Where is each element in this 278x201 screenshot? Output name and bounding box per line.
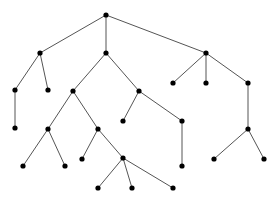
tree-node [45, 126, 50, 131]
tree-node [211, 156, 216, 161]
tree-node [120, 118, 125, 123]
tree-node [136, 88, 141, 93]
tree-node [12, 87, 17, 92]
diagram-background [0, 0, 278, 201]
tree-node [37, 50, 42, 55]
tree-node [245, 80, 250, 85]
tree-node [70, 88, 75, 93]
tree-node [170, 80, 175, 85]
tree-node [79, 156, 84, 161]
tree-node [179, 118, 184, 123]
tree-node [95, 126, 100, 131]
tree-node [103, 50, 108, 55]
tree-node [245, 126, 250, 131]
tree-node [203, 50, 208, 55]
tree-node [95, 185, 100, 190]
tree-node [12, 125, 17, 130]
tree-node [179, 163, 184, 168]
tree-node [45, 87, 50, 92]
tree-node [203, 80, 208, 85]
tree-node [103, 12, 108, 17]
tree-node [120, 155, 125, 160]
tree-node [62, 163, 67, 168]
tree-node [261, 156, 266, 161]
tree-diagram [0, 0, 278, 201]
tree-node [129, 185, 134, 190]
tree-node [20, 163, 25, 168]
tree-node [170, 185, 175, 190]
